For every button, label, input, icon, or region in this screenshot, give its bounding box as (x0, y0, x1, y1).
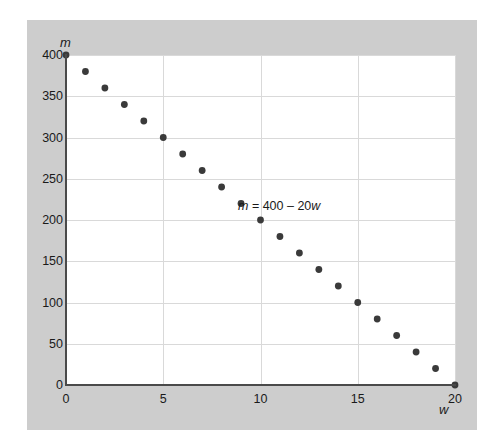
x-axis-tick-label: 5 (143, 393, 183, 406)
x-axis-label: w (439, 402, 448, 417)
figure-panel: 050100150200250300350400 05101520 m w m … (27, 20, 477, 430)
x-axis-tick-label: 10 (241, 393, 281, 406)
equation-annotation: m = 400 – 20w (238, 199, 320, 213)
y-axis-label: m (60, 35, 71, 50)
x-axis-tick-labels: 05101520 (27, 20, 477, 430)
equation-rhs-variable: w (311, 199, 320, 213)
x-axis-tick-label: 0 (46, 393, 86, 406)
equation-operator: = 400 – 20 (248, 199, 311, 213)
equation-lhs-variable: m (238, 199, 248, 213)
x-axis-tick-label: 15 (338, 393, 378, 406)
